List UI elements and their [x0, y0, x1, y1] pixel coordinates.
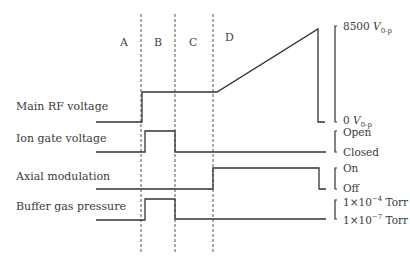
phase-b-label: B [154, 36, 162, 49]
rf-bracket [335, 26, 337, 122]
rf-high-label: 8500 V0-p [343, 20, 392, 35]
gate-closed-label: Closed [343, 146, 379, 158]
axial-bracket [335, 168, 337, 189]
gas-high-label: 1×10−4 Torr [343, 195, 408, 208]
buffer-gas-trace [96, 199, 326, 220]
phase-d-label: D [225, 31, 234, 44]
main-rf-label: Main RF voltage [16, 100, 108, 113]
buffer-gas-label: Buffer gas pressure [16, 200, 126, 213]
phase-c-label: C [189, 36, 197, 49]
gas-low-label: 1×10−7 Torr [343, 213, 408, 226]
axial-off-label: Off [343, 182, 359, 194]
main-rf-trace [96, 29, 325, 122]
axial-on-label: On [343, 162, 358, 174]
gate-open-label: Open [343, 126, 371, 138]
ion-gate-label: Ion gate voltage [16, 132, 106, 145]
gas-bracket [335, 200, 337, 219]
axial-modulation-trace [96, 168, 326, 189]
phase-dividers [141, 14, 213, 252]
ion-gate-trace [96, 131, 326, 152]
phase-a-label: A [120, 36, 128, 49]
axial-modulation-label: Axial modulation [16, 170, 110, 183]
scale-brackets [335, 26, 337, 219]
gate-bracket [335, 131, 337, 152]
